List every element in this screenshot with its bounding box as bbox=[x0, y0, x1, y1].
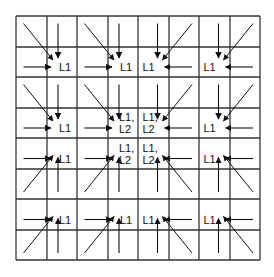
grid-aggregation-figure: L1L1L1L1L1L1,L2L1,L2L1L1L1,L2L1,L2L1L1L1… bbox=[0, 0, 274, 277]
block-label: L1, bbox=[119, 142, 134, 154]
block-label: L1, bbox=[143, 142, 158, 154]
grid-lines bbox=[16, 16, 260, 260]
block-label: L1 bbox=[59, 61, 71, 73]
block-label: L1 bbox=[59, 153, 71, 165]
arrow-diagonal bbox=[224, 85, 254, 122]
grid-diagram: L1L1L1L1L1L1,L2L1,L2L1L1L1,L2L1,L2L1L1L1… bbox=[0, 0, 274, 277]
block-label: L2 bbox=[119, 154, 131, 166]
arrow-diagonal bbox=[24, 85, 54, 122]
block-label: L1 bbox=[59, 214, 71, 226]
arrow-diagonal bbox=[163, 156, 193, 193]
arrow-diagonal bbox=[24, 24, 54, 61]
arrow-diagonal bbox=[85, 217, 115, 254]
arrow-diagonal bbox=[85, 85, 115, 122]
arrow-diagonal bbox=[163, 217, 193, 254]
arrow-diagonal bbox=[224, 24, 254, 61]
block-label: L1, bbox=[143, 111, 158, 123]
arrow-diagonal bbox=[85, 24, 115, 61]
block-label: L1 bbox=[120, 61, 132, 73]
arrow-diagonal bbox=[163, 24, 193, 61]
arrow-diagonal bbox=[224, 156, 254, 193]
block-label: L2 bbox=[119, 123, 131, 135]
block-label: L1 bbox=[204, 153, 216, 165]
block-label: L2 bbox=[143, 154, 155, 166]
arrow-diagonal bbox=[224, 217, 254, 254]
block-label: L1 bbox=[120, 214, 132, 226]
arrow-diagonal bbox=[24, 217, 54, 254]
arrow-diagonal bbox=[85, 156, 115, 193]
block-label: L1 bbox=[59, 122, 71, 134]
block-label: L1 bbox=[204, 122, 216, 134]
arrow-diagonal bbox=[163, 85, 193, 122]
block-label: L1 bbox=[204, 214, 216, 226]
block-label: L1, bbox=[119, 111, 134, 123]
arrow-diagonal bbox=[24, 156, 54, 193]
block-label: L1 bbox=[143, 61, 155, 73]
block-label: L2 bbox=[143, 123, 155, 135]
block-label: L1 bbox=[143, 214, 155, 226]
block-label: L1 bbox=[204, 61, 216, 73]
